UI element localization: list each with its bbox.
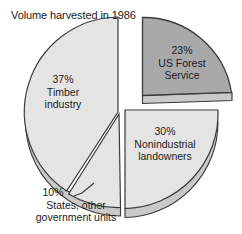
slice-label-nonindustrial-landowners: 30% Nonindustrial landowners [119,125,211,163]
slice-name-us-forest-service-line2: Service [146,69,218,82]
slice-name-us-forest-service-line1: US Forest [146,57,218,70]
slice-name-states-government-line2: government units [14,211,138,224]
pie-chart: Volume harvested in 1986 23% US Forest S… [0,0,242,234]
slice-name-nonindustrial-landowners-line1: Nonindustrial [119,138,211,151]
slice-label-states-government: 10% States, other government units [14,186,138,224]
slice-percent-us-forest-service: 23% [146,44,218,57]
slice-label-timber-industry: 37% Timber industry [30,73,96,111]
slice-name-nonindustrial-landowners-line2: landowners [119,150,211,163]
slice-percent-nonindustrial-landowners: 30% [119,125,211,138]
slice-label-us-forest-service: 23% US Forest Service [146,44,218,82]
slice-percent-timber-industry: 37% [30,73,96,86]
slice-percent-states-government: 10% [14,186,138,199]
slice-name-timber-industry-line1: Timber [30,86,96,99]
slice-name-states-government-line1: States, other [14,199,138,212]
chart-title: Volume harvested in 1986 [11,9,136,21]
slice-name-timber-industry-line2: industry [30,98,96,111]
